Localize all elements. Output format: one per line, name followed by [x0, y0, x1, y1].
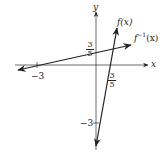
f-inverse-line: [18, 45, 131, 70]
y-axis-label: y: [93, 3, 98, 12]
function-inverse-graph: [0, 0, 167, 159]
frac-den: 5: [108, 81, 116, 89]
f-inverse-label: f−1(x): [134, 32, 158, 43]
f-inverse-arg: (x): [146, 33, 158, 43]
f-inverse-sup: −1: [137, 31, 146, 38]
x-tick-label-three-fifths: 3 5: [108, 72, 116, 89]
f-label: f(x): [117, 18, 132, 27]
x-axis-label: x: [151, 60, 156, 69]
frac-den: 5: [86, 50, 94, 58]
x-tick-label-neg3: −3: [31, 72, 44, 81]
y-tick-label-neg3: −3: [80, 119, 93, 128]
y-tick-label-three-fifths: 3 5: [86, 41, 94, 58]
